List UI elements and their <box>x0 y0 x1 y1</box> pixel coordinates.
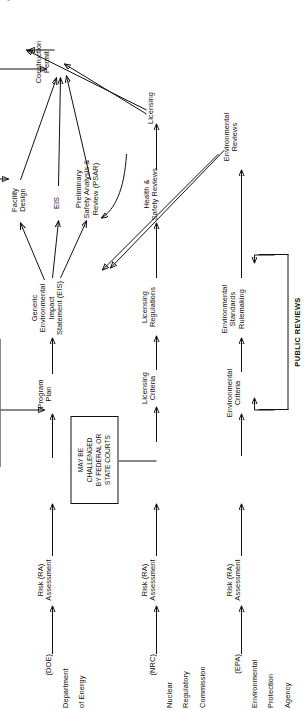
label-construction-permit: Construction Permit <box>35 34 52 90</box>
agency-nrc-name1: Nuclear <box>165 652 173 708</box>
note-box-may-be-challenged: MAY BE CHALLENGED BY FEDERAL OR STATE CO… <box>71 416 119 504</box>
label-operating-permit: Operating Permit <box>5 0 22 10</box>
public-reviews-label: PUBLIC REVIEWS <box>293 254 302 410</box>
label-licensing-criteria: Licensing Criteria <box>141 366 158 410</box>
label-environmental-reviews: Environmental Reviews <box>223 106 240 168</box>
label-risk-assessment-doe: Risk (RA) Assessment <box>37 554 54 606</box>
agency-doe-abbr: (DOE) <box>45 654 53 708</box>
agency-nrc-name3: Commission <box>198 652 206 708</box>
agency-doe: (DOE) Department of Energy <box>37 652 95 708</box>
label-licensing: Licensing <box>147 86 155 130</box>
agency-nrc-abbr: (NRC) <box>149 654 157 708</box>
agency-epa-name1: Environmental <box>250 652 258 708</box>
label-risk-assessment-epa: Risk (RA) Assessment <box>226 554 243 606</box>
label-eis: EIS <box>53 185 61 221</box>
agency-epa: (EPA) Environmental Protection Agency <box>226 652 301 708</box>
label-generic-eis: Generic Environmental Impact Statement (… <box>31 276 64 340</box>
label-licensing-regulations: Licensing Regulations <box>141 276 158 338</box>
agency-epa-name3: Agency <box>283 652 291 708</box>
agency-epa-name2: Protection <box>267 652 275 708</box>
agency-doe-name2: of Energy <box>78 652 86 708</box>
public-reviews-bracket <box>259 254 289 410</box>
label-environmental-criteria: Environmental Criteria <box>226 366 243 420</box>
note-challenged-line1: MAY BE <box>77 421 86 499</box>
note-challenged-line3: BY FEDERAL OR <box>95 421 104 499</box>
label-risk-assessment-nrc: Risk (RA) Assessment <box>141 554 158 606</box>
label-psar: Preliminary Safety Analysis & Review (PS… <box>75 154 100 224</box>
diagram-canvas: CONGRESS AUTHORISES COURT CHALLENGES COU… <box>7 0 308 710</box>
agency-epa-abbr: (EPA) <box>234 654 242 708</box>
label-program-plan: Program Plan <box>37 372 54 416</box>
label-facility-design: Facility Design <box>11 177 28 223</box>
note-challenged-line2: CHALLENGED <box>86 421 95 499</box>
note-challenged-line4: STATE COURTS <box>103 421 112 499</box>
label-environmental-standards-rulemaking: Environmental Standards Rulemaking <box>221 276 246 342</box>
agency-doe-name1: Department <box>61 652 69 708</box>
agency-nrc: (NRC) Nuclear Regulatory Commission <box>141 652 216 708</box>
agency-nrc-name2: Regulatory <box>182 652 190 708</box>
label-health-safety-reviews: Health & Safety Reviews <box>143 166 160 222</box>
note-box-reviewed-by: Reviewed by - 1.President's Office of Ma… <box>0 339 1 467</box>
